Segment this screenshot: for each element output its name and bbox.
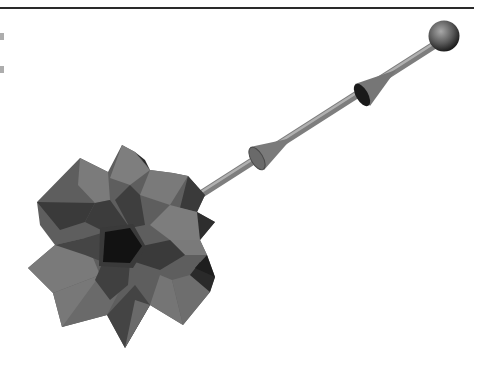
cone-arrowhead-2 <box>351 70 396 109</box>
star-polyhedron-illustration <box>0 0 486 369</box>
star-polyhedron <box>28 145 215 348</box>
cone-arrowhead-1 <box>246 138 292 172</box>
rod <box>195 42 436 198</box>
end-sphere <box>429 21 460 52</box>
